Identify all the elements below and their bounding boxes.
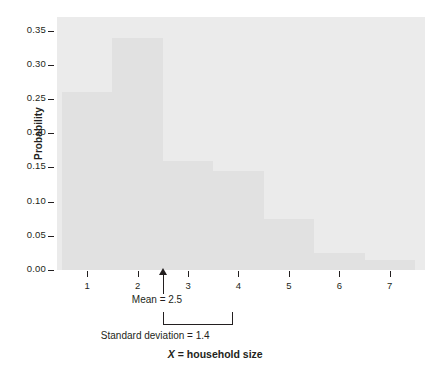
y-axis-tick-label: 0.30 bbox=[27, 58, 46, 69]
x-axis-tick-mark bbox=[339, 271, 340, 277]
arrow-shaft bbox=[163, 273, 164, 294]
x-axis-tick-mark bbox=[238, 271, 239, 277]
x-axis-tick-label: 1 bbox=[77, 280, 97, 291]
x-axis-tick-label: 3 bbox=[178, 280, 198, 291]
y-axis-tick-mark bbox=[48, 167, 54, 168]
x-axis-title-variable: X bbox=[168, 348, 175, 360]
x-axis-tick-label: 5 bbox=[279, 280, 299, 291]
x-axis-title: X = household size bbox=[168, 348, 263, 360]
mean-annotation-label: Mean = 2.5 bbox=[132, 294, 182, 305]
y-axis-tick-label: 0.25 bbox=[27, 92, 46, 103]
y-axis-tick-mark bbox=[48, 133, 54, 134]
y-axis-tick-mark bbox=[48, 202, 54, 203]
x-axis-tick-mark bbox=[188, 271, 189, 277]
y-axis-tick-label: 0.35 bbox=[27, 24, 46, 35]
y-axis-tick-label: 0.15 bbox=[27, 160, 46, 171]
y-axis-tick-mark bbox=[48, 270, 54, 271]
x-axis-tick-label: 7 bbox=[380, 280, 400, 291]
plot-area bbox=[57, 17, 425, 270]
x-axis-tick-label: 4 bbox=[228, 280, 248, 291]
x-axis-tick-mark bbox=[138, 271, 139, 277]
y-axis-tick-label: 0.20 bbox=[27, 126, 46, 137]
standard-deviation-bracket bbox=[163, 312, 234, 325]
bar bbox=[314, 253, 364, 270]
x-axis-title-rest: = household size bbox=[175, 348, 263, 360]
x-axis-tick-mark bbox=[390, 271, 391, 277]
y-axis-tick-label: 0.00 bbox=[27, 263, 46, 274]
y-axis-tick-mark bbox=[48, 31, 54, 32]
y-axis-tick-mark bbox=[48, 99, 54, 100]
y-axis-tick-label: 0.10 bbox=[27, 195, 46, 206]
standard-deviation-annotation-label: Standard deviation = 1.4 bbox=[101, 330, 210, 341]
y-axis-tick-mark bbox=[48, 236, 54, 237]
x-axis-tick-mark bbox=[87, 271, 88, 277]
bar bbox=[264, 219, 314, 270]
bar bbox=[365, 260, 415, 270]
x-axis-tick-mark bbox=[289, 271, 290, 277]
y-axis-tick-mark bbox=[48, 65, 54, 66]
bar bbox=[213, 171, 263, 270]
bracket-span-line bbox=[163, 324, 234, 325]
x-axis-tick-label: 2 bbox=[128, 280, 148, 291]
y-axis-tick-label: 0.05 bbox=[27, 229, 46, 240]
x-axis-tick-label: 6 bbox=[329, 280, 349, 291]
bar bbox=[62, 92, 112, 270]
bar bbox=[112, 38, 162, 270]
probability-histogram-chart: Probability 0.000.050.100.150.200.250.30… bbox=[0, 0, 439, 370]
bar bbox=[163, 161, 213, 270]
